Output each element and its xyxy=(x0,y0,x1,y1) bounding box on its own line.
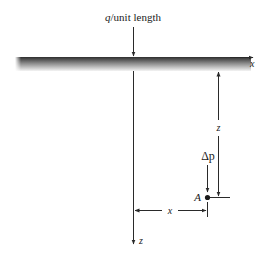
load-label: q/unit length xyxy=(105,11,161,23)
point-a-marker xyxy=(205,195,210,200)
depth-dimension-label: z xyxy=(216,122,221,133)
ground-surface xyxy=(15,57,251,71)
depth-dimension xyxy=(208,72,230,198)
horizontal-distance-label: x xyxy=(167,205,173,216)
depth-z-axis-label: z xyxy=(138,235,143,246)
line-load-diagram: x q/unit length z z Δp A x xyxy=(0,0,266,259)
stress-increment-label: Δp xyxy=(201,149,215,163)
surface-x-axis-label: x xyxy=(249,58,255,69)
point-a-label: A xyxy=(193,191,201,203)
